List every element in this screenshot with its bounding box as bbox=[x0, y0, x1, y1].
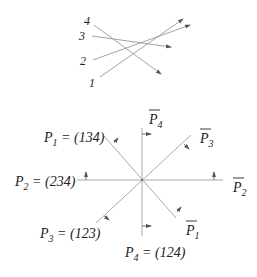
line-label-4: 4 bbox=[84, 14, 90, 28]
hyperplane-p3 bbox=[96, 135, 191, 223]
line-label-2: 2 bbox=[80, 54, 86, 68]
label-p1-bar: P1 bbox=[185, 221, 200, 241]
line-3 bbox=[92, 36, 171, 47]
label-p4-bar: P4 bbox=[148, 110, 163, 130]
label-p3-bar: P3 bbox=[199, 129, 214, 149]
label-p2-bar: P2 bbox=[232, 178, 247, 198]
svg-text:P2: P2 bbox=[232, 180, 247, 198]
top-permutation-diagram: 4 3 2 1 bbox=[78, 14, 190, 90]
hyperplane-arrangement-diagram: 4 3 2 1 P1 = (134) P2 = bbox=[0, 0, 257, 277]
p1-normal-arrow-top bbox=[114, 138, 118, 143]
label-p3: P3 = (123) bbox=[39, 226, 101, 244]
line-label-1: 1 bbox=[89, 76, 95, 90]
label-p4: P4 = (124) bbox=[124, 245, 186, 263]
svg-text:P4: P4 bbox=[148, 112, 163, 130]
label-p1: P1 = (134) bbox=[43, 130, 105, 148]
svg-text:P3: P3 bbox=[199, 131, 214, 149]
bottom-hyperplane-diagram: P1 = (134) P2 = (234) P3 = (123) P4 = (1… bbox=[14, 110, 247, 263]
p1-normal-arrow-bottom bbox=[177, 207, 181, 212]
line-4 bbox=[94, 25, 161, 74]
line-1 bbox=[100, 19, 183, 77]
label-p2: P2 = (234) bbox=[14, 174, 76, 192]
svg-text:P1: P1 bbox=[185, 223, 200, 241]
origin-point bbox=[141, 179, 143, 181]
p3-normal-arrow-bottom bbox=[104, 216, 109, 220]
p3-normal-arrow-top bbox=[184, 144, 189, 149]
line-label-3: 3 bbox=[78, 29, 85, 43]
line-2 bbox=[93, 25, 190, 60]
